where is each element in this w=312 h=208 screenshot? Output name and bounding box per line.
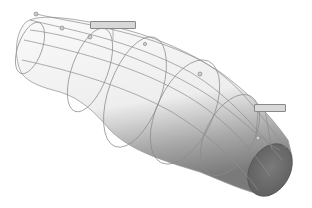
cad-viewport <box>0 0 312 208</box>
callout-label-right <box>254 104 286 112</box>
callout-label-top <box>90 21 136 29</box>
